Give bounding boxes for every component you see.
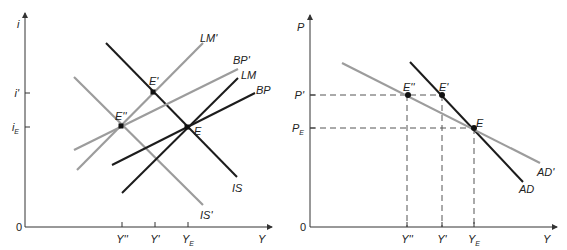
bp-curve-label: BP — [256, 84, 271, 96]
y-tick-label: P' — [295, 89, 305, 101]
is-lm-bp-ad-diagram: i Y 0 ISIS'LMLM'BPBP' i'iEY''Y'YE E''E'E… — [0, 0, 567, 250]
equilibrium-label-e-double-prime: E'' — [403, 81, 415, 93]
y-tick-label: PE — [292, 122, 304, 136]
is-curve-label: IS — [232, 182, 243, 194]
equilibrium-label-e: E — [194, 125, 202, 137]
lm-prime-curve-label: LM' — [200, 32, 218, 44]
ad-prime-curve — [342, 63, 540, 163]
x-tick-label: Y' — [150, 233, 160, 245]
ad-prime-curve-label: AD' — [536, 166, 555, 178]
right-x-axis-label: Y — [543, 233, 551, 245]
x-tick-label: YE — [182, 233, 194, 247]
lm-curve — [122, 78, 238, 193]
equilibrium-label-e: E — [476, 117, 484, 129]
bp-curve — [112, 93, 255, 165]
x-tick-label: Y' — [437, 233, 447, 245]
ad-curve-label: AD — [518, 183, 534, 195]
equilibrium-point-e-double-prime — [119, 124, 124, 129]
equilibrium-label-e-prime: E' — [149, 75, 159, 87]
ad-curve — [410, 62, 523, 182]
equilibrium-label-e-double-prime: E'' — [115, 110, 127, 122]
y-tick-label: i' — [14, 87, 19, 99]
is-prime-curve-label: IS' — [200, 209, 213, 221]
x-tick-label: Y'' — [401, 233, 413, 245]
ad-panel: P Y 0 ADAD' P'PEY''Y'YE E''E'E — [292, 15, 557, 247]
is-lm-bp-panel: i Y 0 ISIS'LMLM'BPBP' i'iEY''Y'YE E''E'E — [12, 13, 272, 247]
equilibrium-point-e-prime — [151, 90, 156, 95]
left-x-axis-label: Y — [258, 233, 266, 245]
y-tick-label: iE — [12, 121, 19, 135]
bp-prime-curve-label: BP' — [233, 54, 251, 66]
right-origin-label: 0 — [300, 221, 306, 233]
x-tick-label: Y'' — [116, 233, 128, 245]
lm-curve-label: LM — [241, 69, 257, 81]
right-y-axis-label: P — [297, 21, 305, 33]
left-y-axis-label: i — [17, 18, 20, 30]
x-tick-label: YE — [468, 233, 480, 247]
left-origin-label: 0 — [16, 221, 22, 233]
equilibrium-point-e — [185, 125, 190, 130]
equilibrium-label-e-prime: E' — [439, 81, 449, 93]
